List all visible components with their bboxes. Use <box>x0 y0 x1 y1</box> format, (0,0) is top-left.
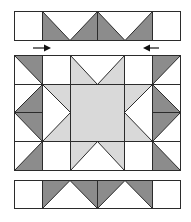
quilt-diagram: Quilt block assembly diagram <box>0 0 191 222</box>
center-star-block <box>15 56 181 171</box>
bottom-border-strip <box>15 181 181 209</box>
arrow-left-icon <box>143 45 159 52</box>
arrow-right-icon <box>33 45 51 52</box>
top-border-strip <box>15 12 181 41</box>
